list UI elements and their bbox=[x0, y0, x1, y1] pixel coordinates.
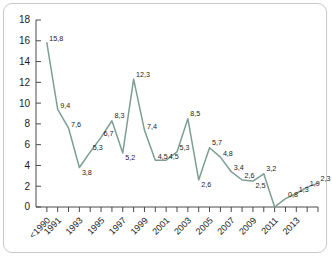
x-axis-tick-label: 2005 bbox=[194, 215, 215, 236]
y-axis-tick-label: 4 bbox=[24, 160, 30, 171]
data-point-label: 5,2 bbox=[125, 153, 135, 162]
data-point-label: 4,5 bbox=[169, 152, 179, 161]
x-axis-tick-label: 2011 bbox=[259, 215, 280, 236]
y-axis-tick-marks bbox=[36, 20, 41, 207]
data-point-label: 2,6 bbox=[245, 171, 255, 180]
data-point-label: 15,8 bbox=[49, 34, 63, 43]
y-axis-tick-label: 2 bbox=[24, 181, 30, 192]
y-axis-tick-label: 12 bbox=[19, 77, 31, 88]
y-axis-tick-label: 6 bbox=[24, 139, 30, 150]
data-point-label: 1,3 bbox=[299, 185, 309, 194]
y-axis-tick-label: 14 bbox=[19, 56, 31, 67]
y-axis-tick-label: 10 bbox=[19, 98, 31, 109]
data-point-label: 2,3 bbox=[321, 174, 331, 183]
data-point-labels: 15,89,47,63,85,36,78,35,212,37,44,54,55,… bbox=[49, 34, 330, 199]
data-point-label: 8,3 bbox=[114, 111, 124, 120]
line-chart: 024681012141618 <19901991199319951997199… bbox=[0, 0, 332, 258]
y-axis-tick-label: 8 bbox=[24, 118, 30, 129]
y-axis-tick-label: 18 bbox=[19, 14, 31, 25]
data-point-label: 5,7 bbox=[212, 138, 222, 147]
data-point-label: 5,3 bbox=[180, 143, 190, 152]
data-point-label: 7,6 bbox=[71, 120, 81, 129]
data-point-label: 2,5 bbox=[255, 181, 265, 190]
data-point-label: 5,3 bbox=[93, 143, 103, 152]
data-point-label: 7,4 bbox=[147, 122, 157, 131]
data-point-label: 12,3 bbox=[136, 70, 150, 79]
x-axis-tick-label: 1993 bbox=[64, 215, 85, 236]
data-point-label: 4,8 bbox=[223, 149, 233, 158]
x-axis-tick-label: 2007 bbox=[215, 215, 236, 236]
x-axis-tick-label: 1999 bbox=[129, 215, 150, 236]
data-point-label: 3,2 bbox=[266, 164, 276, 173]
y-axis-tick-label: 16 bbox=[19, 35, 31, 46]
x-axis-tick-label: 2009 bbox=[237, 215, 258, 236]
x-axis-tick-label: 1995 bbox=[85, 215, 106, 236]
data-point-label: 0,8 bbox=[288, 190, 298, 199]
data-point-label: 4,5 bbox=[158, 152, 168, 161]
x-axis-tick-label: 2001 bbox=[150, 215, 171, 236]
data-point-label: 3,4 bbox=[234, 163, 244, 172]
x-axis-tick-labels: <199019911993199519971999200120032005200… bbox=[27, 215, 301, 240]
y-axis-tick-labels: 024681012141618 bbox=[19, 14, 31, 212]
data-point-label: 1,9 bbox=[310, 179, 320, 188]
data-point-label: 8,5 bbox=[190, 109, 200, 118]
data-point-label: 9,4 bbox=[60, 101, 70, 110]
y-axis-tick-label: 0 bbox=[24, 201, 30, 212]
x-axis-tick-label: 2013 bbox=[280, 215, 301, 236]
data-point-label: 6,7 bbox=[104, 129, 114, 138]
data-series-line bbox=[47, 43, 318, 207]
x-axis-tick-label: 1997 bbox=[107, 215, 128, 236]
data-point-label: 2,6 bbox=[201, 180, 211, 189]
x-axis-tick-marks bbox=[47, 207, 318, 212]
x-axis-tick-label: 2003 bbox=[172, 215, 193, 236]
data-point-label: 3,8 bbox=[82, 168, 92, 177]
